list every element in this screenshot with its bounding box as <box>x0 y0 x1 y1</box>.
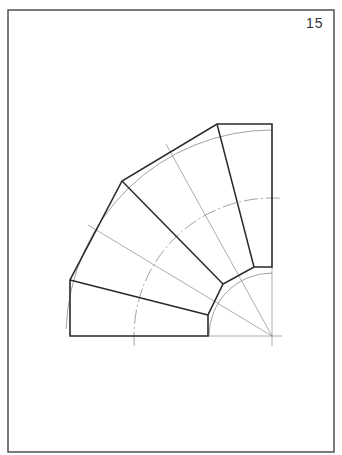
page-number: 15 <box>306 15 324 31</box>
segment-divider <box>217 124 254 267</box>
drawing-sheet <box>0 0 342 455</box>
inner-arc <box>209 273 272 336</box>
construction-line <box>166 144 272 336</box>
construction-arcs <box>66 130 282 346</box>
segment-divider-lines <box>70 124 254 315</box>
construction-line <box>88 225 272 336</box>
segment-divider <box>122 181 223 284</box>
